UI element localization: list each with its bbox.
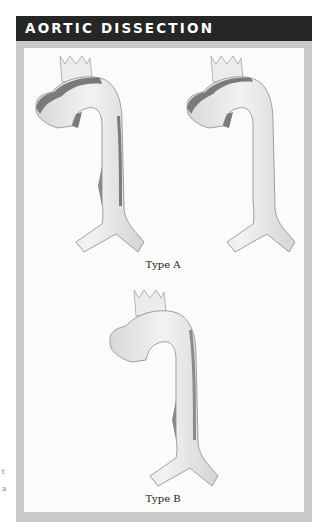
aorta-type-a-illustration-left: [32, 56, 148, 256]
edge-mark: t: [2, 468, 5, 476]
caption-type-b: Type B: [123, 493, 203, 504]
figure-title: AORTIC DISSECTION: [16, 16, 312, 41]
edge-mark: a: [2, 485, 6, 493]
aorta-type-a-illustration-right: [183, 56, 299, 256]
aorta-type-b-illustration: [106, 290, 222, 490]
caption-type-a: Type A: [123, 259, 203, 270]
